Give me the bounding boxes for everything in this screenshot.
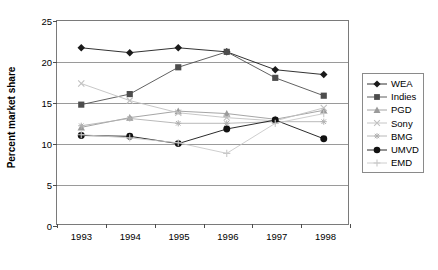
legend-item-sony[interactable]: Sony: [366, 117, 419, 130]
legend-item-label: PGD: [391, 104, 412, 115]
data-point: [271, 66, 279, 74]
legend-item-label: BMG: [391, 131, 413, 142]
legend-marker-square-icon: [366, 91, 388, 103]
x-tick-mark: [155, 224, 156, 228]
data-point: [321, 93, 327, 99]
y-tick-label: 20: [41, 57, 52, 68]
data-point: [127, 91, 133, 97]
y-tick-label: 5: [47, 180, 52, 191]
series-umvd: [78, 117, 327, 147]
x-tick-mark: [301, 224, 302, 228]
data-point: [126, 49, 134, 57]
data-point: [127, 115, 133, 121]
legend-item-indies[interactable]: Indies: [366, 90, 419, 103]
y-tick-label: 0: [47, 221, 52, 232]
data-point: [175, 120, 181, 126]
y-tick-label: 15: [41, 98, 52, 109]
legend-item-label: EMD: [391, 157, 412, 168]
data-point: [272, 75, 278, 81]
x-tick-label: 1997: [266, 231, 287, 242]
line-chart: Percent market share 0510152025 19931994…: [0, 0, 438, 270]
legend-marker-circle-icon: [366, 144, 388, 156]
x-tick-mark: [106, 224, 107, 228]
x-tick-label: 1994: [120, 231, 141, 242]
data-point: [174, 44, 182, 52]
data-point: [223, 150, 230, 157]
x-tick-label: 1993: [71, 231, 92, 242]
series-line: [81, 48, 323, 75]
x-tick-label: 1995: [169, 231, 190, 242]
data-point: [78, 123, 84, 129]
legend-item-label: Sony: [391, 118, 413, 129]
legend-item-bmg[interactable]: BMG: [366, 130, 419, 143]
legend-item-umvd[interactable]: UMVD: [366, 143, 419, 156]
data-point: [320, 71, 328, 79]
data-point: [127, 98, 133, 104]
legend: WEAIndiesPGDSonyBMGUMVDEMD: [362, 73, 424, 173]
series-layer: [57, 21, 348, 224]
x-tick-mark: [252, 224, 253, 228]
data-point: [223, 126, 230, 133]
legend-item-label: WEA: [391, 78, 413, 89]
series-line: [81, 84, 323, 121]
data-point: [175, 64, 181, 70]
series-wea: [77, 44, 327, 78]
x-tick-label: 1998: [315, 231, 336, 242]
y-axis-title-text: Percent market share: [7, 67, 18, 169]
data-point: [224, 120, 230, 126]
legend-item-emd[interactable]: EMD: [366, 156, 419, 169]
series-sony: [78, 80, 327, 123]
y-tick-label: 25: [41, 16, 52, 27]
series-line: [81, 114, 323, 154]
data-point: [224, 49, 230, 55]
x-tick-mark: [350, 224, 351, 228]
x-tick-mark: [57, 224, 58, 228]
x-tick-mark: [204, 224, 205, 228]
x-tick-label: 1996: [217, 231, 238, 242]
legend-item-pgd[interactable]: PGD: [366, 103, 419, 116]
series-indies: [78, 49, 327, 108]
data-point: [320, 135, 327, 142]
legend-marker-star-icon: [366, 130, 388, 142]
y-axis-title: Percent market share: [2, 0, 22, 235]
plot-area: 0510152025 199319941995199619971998: [56, 20, 349, 225]
y-tick-label: 10: [41, 139, 52, 150]
data-point: [77, 44, 85, 52]
legend-marker-plus-icon: [366, 157, 388, 169]
legend-item-wea[interactable]: WEA: [366, 77, 419, 90]
data-point: [78, 102, 84, 108]
legend-marker-triangle-icon: [366, 104, 388, 116]
legend-item-label: Indies: [391, 91, 416, 102]
series-pgd: [78, 107, 328, 131]
data-point: [321, 119, 327, 125]
legend-marker-diamond-icon: [366, 78, 388, 90]
data-point: [78, 80, 84, 86]
legend-item-label: UMVD: [391, 144, 419, 155]
legend-marker-cross-icon: [366, 117, 388, 129]
